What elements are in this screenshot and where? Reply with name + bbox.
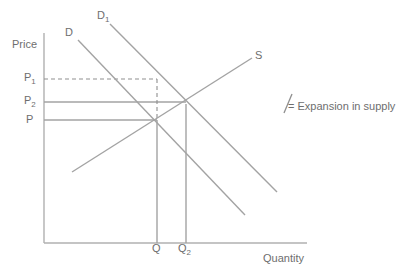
supply-demand-plot xyxy=(0,0,409,279)
y-axis-label: Price xyxy=(12,39,37,50)
diagram-canvas: Price Quantity P1 P2 P Q Q2 D D1 S = Exp… xyxy=(0,0,409,279)
price-tick-p2-sub: 2 xyxy=(31,100,35,109)
demand-curve-d xyxy=(78,40,245,215)
price-tick-p: P xyxy=(26,114,33,125)
price-tick-p-text: P xyxy=(26,113,33,125)
demand-curve-d1 xyxy=(110,24,277,192)
supply-curve-s xyxy=(72,58,252,172)
quantity-tick-q: Q xyxy=(152,243,161,254)
curve-label-d: D xyxy=(65,27,73,38)
curve-label-s-text: S xyxy=(255,49,262,61)
curve-label-d-text: D xyxy=(65,26,73,38)
curve-label-s: S xyxy=(255,50,262,61)
curve-label-d1-text: D xyxy=(97,9,105,21)
quantity-tick-q2: Q2 xyxy=(178,243,191,257)
quantity-tick-q-text: Q xyxy=(152,242,161,254)
x-axis-label: Quantity xyxy=(263,253,304,264)
legend-text: = Expansion in supply xyxy=(288,101,395,112)
curve-label-d1-sub: 1 xyxy=(105,15,109,24)
quantity-tick-q2-sub: 2 xyxy=(187,248,191,257)
curve-label-d1: D1 xyxy=(97,10,109,24)
price-tick-p1: P1 xyxy=(24,72,36,86)
price-tick-p2: P2 xyxy=(24,95,36,109)
quantity-tick-q2-text: Q xyxy=(178,242,187,254)
price-tick-p1-sub: 1 xyxy=(31,77,35,86)
